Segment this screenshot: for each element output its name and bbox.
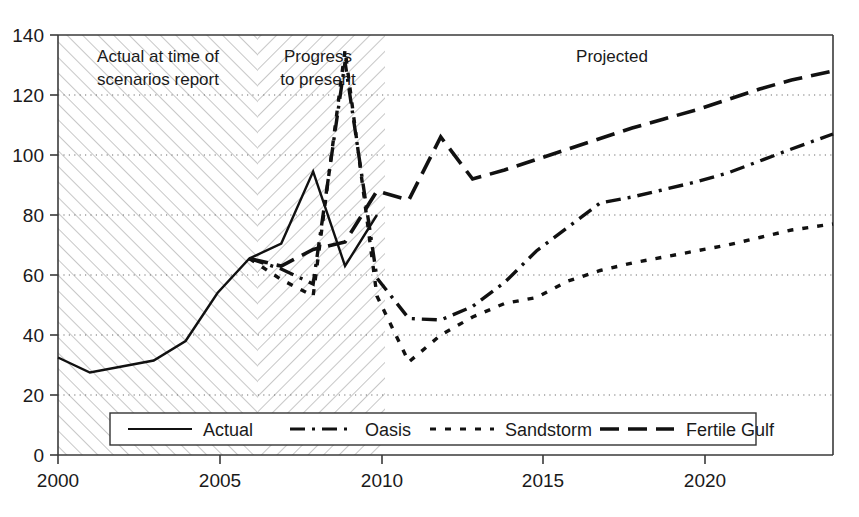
legend-label-oasis: Oasis [365,420,411,440]
band-label-actual-line1: Actual at time of [97,47,219,66]
chart-container: 140 120 100 80 60 40 20 0 2000 2005 2010… [0,0,859,517]
x-tick-label: 2010 [361,470,403,491]
line-chart: 140 120 100 80 60 40 20 0 2000 2005 2010… [0,0,859,517]
y-tick-label: 120 [12,85,44,106]
band-label-actual-line2: scenarios report [97,70,219,89]
y-tick-label: 40 [23,325,44,346]
x-tick-label: 2015 [522,470,564,491]
band-actual-hatch [58,35,258,455]
x-axis-tick-labels: 2000 2005 2010 2015 2020 [37,470,726,491]
x-tick-label: 2000 [37,470,79,491]
legend-label-sandstorm: Sandstorm [505,420,592,440]
band-projected [385,35,833,455]
x-axis [58,455,705,464]
y-tick-label: 60 [23,265,44,286]
y-tick-label: 100 [12,145,44,166]
y-tick-label: 20 [23,385,44,406]
legend-label-actual: Actual [203,420,253,440]
y-tick-label: 80 [23,205,44,226]
x-tick-label: 2005 [199,470,241,491]
legend: Actual Oasis Sandstorm Fertile Gulf [110,413,775,445]
y-axis-tick-labels: 140 120 100 80 60 40 20 0 [12,25,44,466]
band-label-progress-line1: Progress [284,47,352,66]
x-tick-label: 2020 [684,470,726,491]
legend-label-fertile-gulf: Fertile Gulf [686,420,775,440]
band-label-progress-line2: to present [280,70,356,89]
background-bands [58,35,833,455]
y-tick-label: 140 [12,25,44,46]
y-axis [50,35,58,455]
y-tick-label: 0 [33,445,44,466]
band-label-projected: Projected [576,47,648,66]
